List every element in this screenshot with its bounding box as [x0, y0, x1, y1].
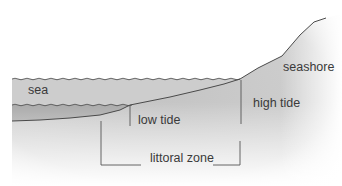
label-high-tide: high tide — [253, 96, 300, 110]
label-sea: sea — [28, 83, 48, 97]
label-littoral-zone: littoral zone — [150, 151, 214, 165]
littoral-zone-diagram: sea seashore low tide high tide littoral… — [0, 0, 342, 186]
label-low-tide: low tide — [138, 113, 180, 127]
label-seashore: seashore — [283, 60, 334, 74]
